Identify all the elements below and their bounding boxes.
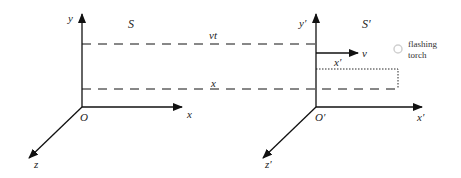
s-prime-x-label: x′ bbox=[416, 111, 425, 123]
flashing-torch: flashing torch bbox=[394, 39, 437, 60]
s-y-label: y bbox=[67, 12, 73, 24]
dashed-lines: vt x bbox=[82, 29, 398, 89]
s-prime-origin-label: O′ bbox=[315, 111, 326, 123]
s-z-axis bbox=[29, 107, 82, 158]
s-x-label: x bbox=[186, 108, 192, 120]
velocity-label: v bbox=[362, 47, 367, 59]
torch-icon bbox=[394, 45, 402, 53]
offset-dotted-line bbox=[316, 69, 398, 89]
x-distance-label: x bbox=[210, 77, 216, 89]
s-prime-title: S′ bbox=[362, 17, 371, 31]
s-origin-label: O bbox=[80, 111, 88, 123]
vt-label: vt bbox=[209, 29, 218, 41]
s-prime-y-label: y′ bbox=[298, 17, 307, 29]
torch-label-line2: torch bbox=[408, 50, 427, 60]
torch-label-line1: flashing bbox=[408, 39, 437, 49]
s-z-label: z bbox=[33, 158, 39, 170]
offset-label: x′ bbox=[333, 56, 342, 68]
s-title: S bbox=[128, 17, 134, 31]
s-prime-z-axis bbox=[263, 107, 316, 158]
reference-frames-diagram: y S x z O vt x v y′ S′ x′ z′ O′ x′ flash… bbox=[0, 0, 461, 178]
s-prime-z-label: z′ bbox=[264, 158, 272, 170]
frame-s: y S x z O bbox=[29, 12, 192, 170]
frame-s-prime: v y′ S′ x′ z′ O′ x′ bbox=[263, 14, 425, 170]
